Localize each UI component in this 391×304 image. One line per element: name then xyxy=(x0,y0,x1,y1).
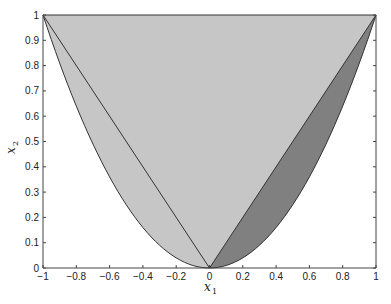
x-tick-label: 0.4 xyxy=(269,271,283,282)
y-axis-label: x 2 xyxy=(4,141,20,154)
x-axis-label: x 1 xyxy=(204,280,217,296)
x-axis-label-main: x xyxy=(204,280,211,294)
y-tick-label: 0.6 xyxy=(25,111,39,122)
x-axis-label-sub: 1 xyxy=(212,287,217,296)
x-tick-label: −0.6 xyxy=(100,271,120,282)
x-tick-label: −0.2 xyxy=(166,271,186,282)
y-tick-label: 0.4 xyxy=(25,161,39,172)
chart-canvas: −1−0.8−0.6−0.4−0.200.20.40.60.81 00.10.2… xyxy=(0,0,391,304)
y-tick-label: 1 xyxy=(33,10,39,21)
x-tick-label: 1 xyxy=(373,271,379,282)
x-tick-label: −0.8 xyxy=(66,271,86,282)
y-tick-label: 0.1 xyxy=(25,237,39,248)
y-tick-label: 0.2 xyxy=(25,212,39,223)
y-tick-label: 0.7 xyxy=(25,85,39,96)
y-axis-label-sub: 2 xyxy=(11,141,20,146)
y-axis-label-main: x xyxy=(4,147,18,154)
x-tick-label: 0.6 xyxy=(302,271,316,282)
x-tick-label: 0.8 xyxy=(336,271,350,282)
x-tick-label: −0.4 xyxy=(133,271,153,282)
y-tick-label: 0 xyxy=(33,263,39,274)
y-tick-label: 0.3 xyxy=(25,187,39,198)
x-tick-label: 0.2 xyxy=(236,271,250,282)
y-tick-label: 0.5 xyxy=(25,136,39,147)
y-tick-label: 0.9 xyxy=(25,35,39,46)
plot-regions xyxy=(43,15,376,268)
x-tick-label: −1 xyxy=(37,271,49,282)
y-tick-label: 0.8 xyxy=(25,60,39,71)
